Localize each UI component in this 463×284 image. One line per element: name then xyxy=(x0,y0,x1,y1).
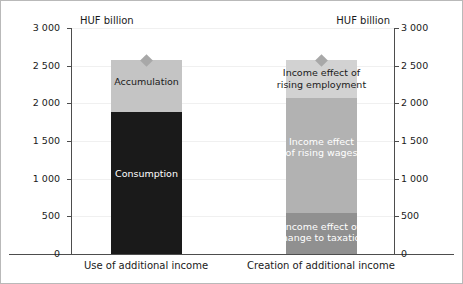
ytick-label-right-1000: 1 000 xyxy=(401,174,428,184)
tick-left-1000 xyxy=(67,179,71,180)
segment-income-effect-change-to-taxation: Income effect of change to taxation xyxy=(286,213,357,254)
bar-use-of-additional-income: Consumption Accumulation xyxy=(111,28,182,254)
ytick-label-left-1000: 1 000 xyxy=(33,174,60,184)
segment-label-consumption: Consumption xyxy=(85,168,208,180)
tick-right-3000 xyxy=(395,28,399,29)
tick-left-3000 xyxy=(67,28,71,29)
segment-label-wages: Income effect of rising wages xyxy=(260,136,383,159)
bar-creation-of-additional-income: Income effect of change to taxation Inco… xyxy=(286,28,357,254)
tick-left-500 xyxy=(67,216,71,217)
tick-right-1000 xyxy=(395,179,399,180)
ytick-label-right-2000: 2 000 xyxy=(401,98,428,108)
ytick-label-right-0: 0 xyxy=(401,249,407,259)
ytick-label-left-3000: 3 000 xyxy=(33,23,60,33)
segment-income-effect-rising-wages: Income effect of rising wages xyxy=(286,98,357,213)
ytick-label-left-2500: 2 500 xyxy=(33,61,60,71)
category-label-creation-of-additional-income: Creation of additional income xyxy=(211,260,431,272)
segment-accumulation: Accumulation xyxy=(111,60,182,111)
ytick-label-left-2000: 2 000 xyxy=(33,98,60,108)
tick-right-1500 xyxy=(395,141,399,142)
tick-right-0 xyxy=(395,254,399,255)
y-axis-unit-left: HUF billion xyxy=(80,15,134,26)
segment-label-employment: Income effect of rising employment xyxy=(260,67,383,90)
ytick-label-left-1500: 1 500 xyxy=(33,136,60,146)
x-axis-baseline xyxy=(9,254,454,255)
tick-right-2500 xyxy=(395,66,399,67)
y-axis-left-line xyxy=(71,28,72,255)
tick-left-0 xyxy=(67,254,71,255)
ytick-label-right-1500: 1 500 xyxy=(401,136,428,146)
plot-area: Consumption Accumulation Income effect o… xyxy=(71,28,394,254)
segment-label-taxation: Income effect of change to taxation xyxy=(260,221,383,244)
chart-figure: HUF billion HUF billion Consumption Accu… xyxy=(0,0,463,284)
ytick-label-right-2500: 2 500 xyxy=(401,61,428,71)
tick-right-500 xyxy=(395,216,399,217)
segment-label-accumulation: Accumulation xyxy=(85,76,208,88)
ytick-label-right-3000: 3 000 xyxy=(401,23,428,33)
y-axis-unit-right: HUF billion xyxy=(336,15,390,26)
ytick-label-right-500: 500 xyxy=(401,211,419,221)
ytick-label-left-500: 500 xyxy=(42,211,60,221)
tick-left-2500 xyxy=(67,66,71,67)
tick-left-2000 xyxy=(67,103,71,104)
segment-consumption: Consumption xyxy=(111,112,182,254)
tick-right-2000 xyxy=(395,103,399,104)
tick-left-1500 xyxy=(67,141,71,142)
ytick-label-left-0: 0 xyxy=(54,249,60,259)
